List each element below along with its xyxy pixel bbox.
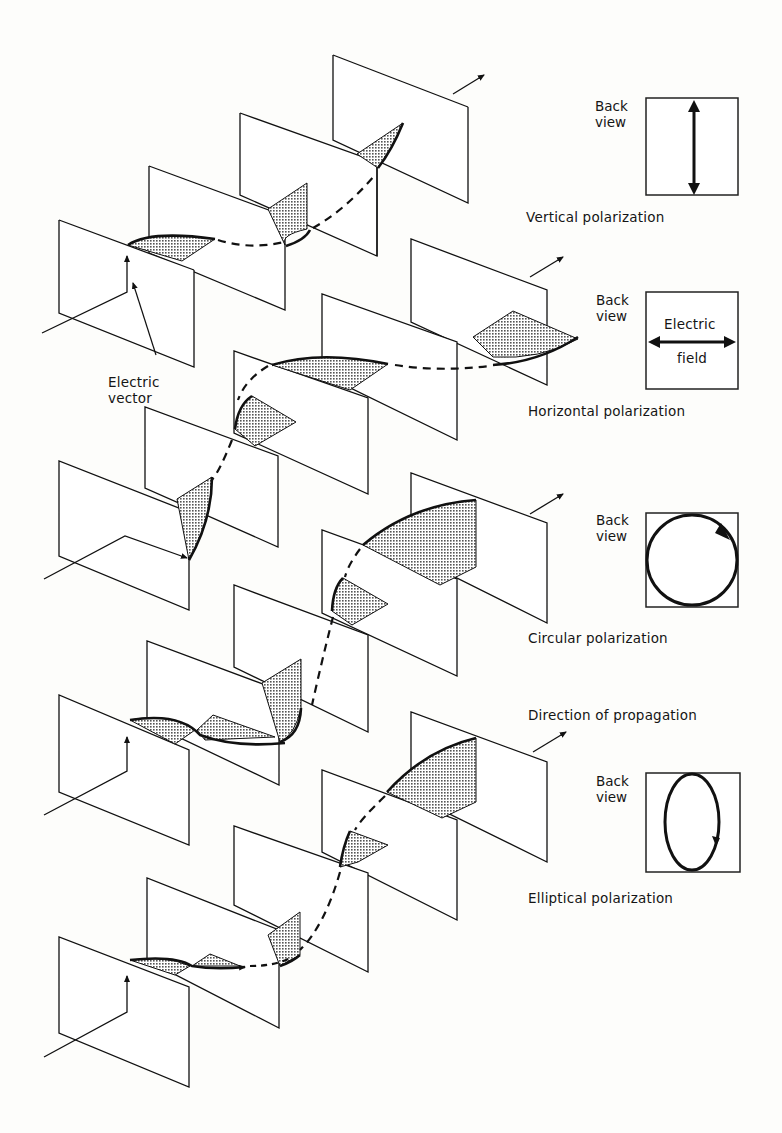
caption-elliptical: Elliptical polarization xyxy=(528,890,673,906)
back-view-label-horizontal: Backview xyxy=(596,292,629,324)
horizontal-double-arrow-icon xyxy=(646,292,738,389)
electric-vector-label: Electric vector xyxy=(108,374,160,406)
back-view-label-circular: Backview xyxy=(596,512,629,544)
electric-field-bottom-label: field xyxy=(677,350,707,366)
caption-vertical: Vertical polarization xyxy=(526,209,664,225)
caption-horizontal: Horizontal polarization xyxy=(528,403,685,419)
vertical-double-arrow-icon xyxy=(646,98,738,195)
caption-circular: Circular polarization xyxy=(528,630,668,646)
back-view-label-vertical: Backview xyxy=(595,98,628,130)
circle-arrow-icon xyxy=(646,513,738,607)
ellipse-arrow-icon xyxy=(646,773,740,872)
back-view-label-elliptical: Backview xyxy=(596,773,629,805)
polarization-diagram xyxy=(0,0,782,1133)
direction-of-propagation-label: Direction of propagation xyxy=(528,707,697,723)
electric-field-top-label: Electric xyxy=(664,316,716,332)
